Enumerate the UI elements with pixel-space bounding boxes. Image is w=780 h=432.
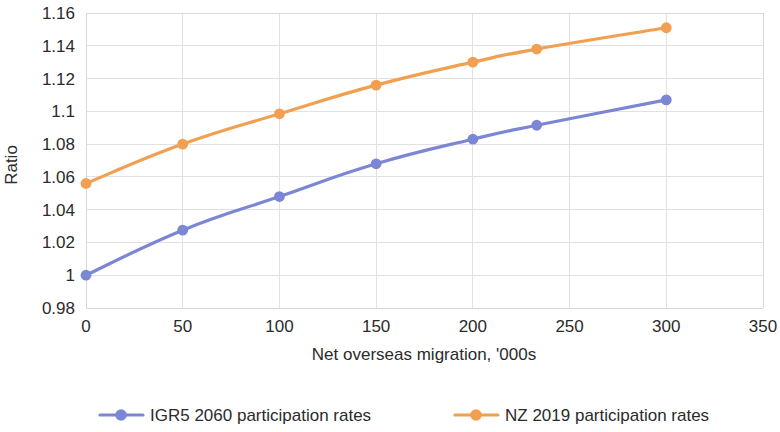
y-tick-label: 0.98 [42, 299, 75, 318]
data-point-marker [661, 94, 672, 105]
y-tick-label: 1.12 [42, 70, 75, 89]
data-point-marker [661, 22, 672, 33]
x-tick-label: 100 [265, 317, 293, 336]
y-tick-label: 1.16 [42, 4, 75, 23]
y-axis-label: Ratio [2, 145, 21, 185]
x-axis-ticks: 050100150200250300350 [81, 317, 777, 336]
data-point-marker [371, 158, 382, 169]
data-point-marker [467, 57, 478, 68]
legend-label: NZ 2019 participation rates [505, 406, 709, 425]
data-point-marker [531, 44, 542, 55]
data-point-marker [177, 139, 188, 150]
x-tick-label: 350 [749, 317, 777, 336]
line-chart: 0.9811.021.041.061.081.11.121.141.16 050… [0, 0, 780, 432]
legend-marker-icon [470, 409, 482, 421]
legend-label: IGR5 2060 participation rates [150, 406, 371, 425]
data-point-marker [467, 134, 478, 145]
data-point-marker [531, 120, 542, 131]
legend-item[interactable]: IGR5 2060 participation rates [100, 406, 371, 425]
y-tick-label: 1.04 [42, 201, 75, 220]
legend-marker-icon [115, 409, 127, 421]
x-tick-label: 300 [652, 317, 680, 336]
x-axis-label: Net overseas migration, '000s [312, 345, 536, 364]
chart-legend: IGR5 2060 participation ratesNZ 2019 par… [100, 406, 709, 425]
legend-item[interactable]: NZ 2019 participation rates [455, 406, 709, 425]
chart-container: 0.9811.021.041.061.081.11.121.141.16 050… [0, 0, 780, 432]
y-tick-label: 1.14 [42, 37, 75, 56]
plot-frame [86, 13, 763, 308]
gridlines [86, 13, 763, 308]
x-tick-label: 200 [459, 317, 487, 336]
x-tick-label: 50 [173, 317, 192, 336]
data-point-marker [177, 225, 188, 236]
data-point-marker [81, 270, 92, 281]
y-tick-label: 1.02 [42, 233, 75, 252]
y-tick-label: 1.06 [42, 168, 75, 187]
data-point-marker [371, 80, 382, 91]
data-point-marker [81, 178, 92, 189]
data-point-marker [274, 191, 285, 202]
y-tick-label: 1.08 [42, 135, 75, 154]
x-tick-label: 150 [362, 317, 390, 336]
y-axis-ticks: 0.9811.021.041.061.081.11.121.141.16 [42, 4, 75, 318]
y-tick-label: 1.1 [51, 102, 75, 121]
x-tick-label: 0 [81, 317, 90, 336]
x-tick-label: 250 [555, 317, 583, 336]
data-point-marker [274, 108, 285, 119]
y-tick-label: 1 [66, 266, 75, 285]
